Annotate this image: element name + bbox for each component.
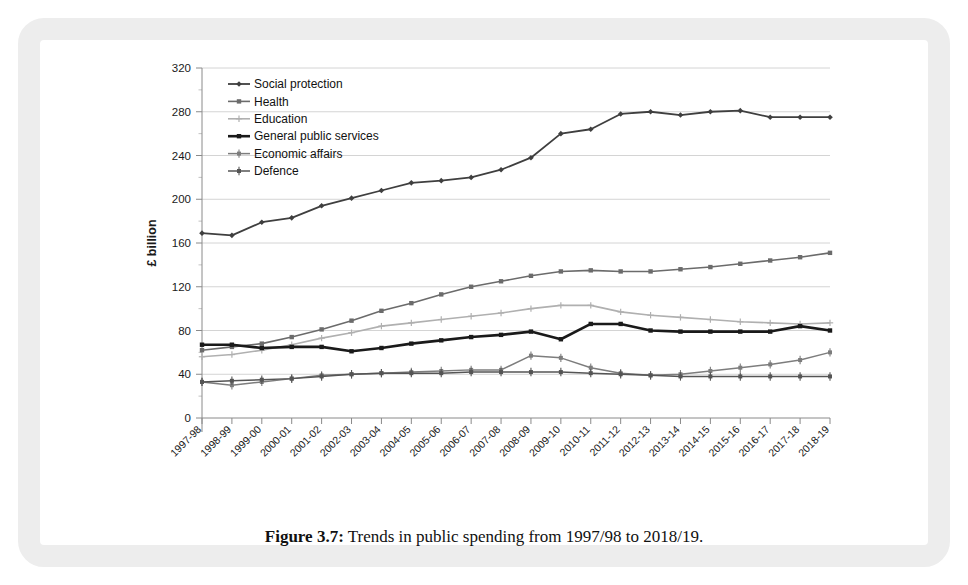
data-point bbox=[589, 322, 593, 326]
figure-container: 04080120160200240280320 1997-981998-9919… bbox=[0, 0, 968, 585]
x-tick-label: 2007-08 bbox=[467, 423, 503, 459]
data-point bbox=[408, 320, 414, 326]
legend-item-economic-affairs: Economic affairs bbox=[228, 147, 342, 161]
data-point bbox=[499, 333, 503, 337]
figure-caption: Figure 3.7: Trends in public spending fr… bbox=[60, 527, 908, 547]
x-tick-label: 2018-19 bbox=[796, 423, 832, 459]
data-point bbox=[798, 324, 802, 328]
data-point bbox=[289, 215, 295, 221]
y-axis-title-group: £ billion bbox=[145, 219, 159, 266]
chart-legend: Social protectionHealthEducationGeneral … bbox=[228, 77, 379, 178]
legend-marker bbox=[237, 134, 241, 138]
series-economic-affairs bbox=[200, 348, 832, 389]
data-point bbox=[259, 219, 265, 225]
data-point bbox=[349, 349, 353, 353]
data-point bbox=[379, 369, 383, 377]
x-tick-label: 2016-17 bbox=[736, 423, 772, 459]
data-point bbox=[260, 346, 264, 350]
data-point bbox=[677, 314, 683, 320]
x-tick-label: 2005-06 bbox=[407, 423, 443, 459]
x-tick-label: 1999-00 bbox=[227, 423, 263, 459]
legend-item-general-public-services: General public services bbox=[228, 129, 379, 143]
line-chart: 04080120160200240280320 1997-981998-9919… bbox=[140, 60, 840, 510]
series-line bbox=[202, 253, 830, 350]
data-point bbox=[828, 328, 832, 332]
figure-caption-label: Figure 3.7: bbox=[265, 527, 344, 546]
legend-marker bbox=[236, 116, 242, 122]
data-point bbox=[319, 345, 323, 349]
series-line bbox=[202, 372, 830, 382]
data-point bbox=[767, 320, 773, 326]
x-tick-label: 2008-09 bbox=[497, 423, 533, 459]
data-point bbox=[498, 167, 504, 173]
y-tick-label: 320 bbox=[172, 62, 191, 74]
data-point bbox=[678, 112, 684, 118]
data-point bbox=[738, 262, 742, 266]
data-point bbox=[409, 301, 413, 305]
data-point bbox=[828, 251, 832, 255]
x-tick-label: 2000-01 bbox=[257, 423, 293, 459]
y-tick-label: 120 bbox=[172, 281, 191, 293]
series-defence bbox=[200, 368, 832, 386]
legend-item-health: Health bbox=[228, 95, 289, 109]
data-point bbox=[559, 337, 563, 341]
data-point bbox=[529, 274, 533, 278]
data-point bbox=[559, 354, 563, 362]
data-point bbox=[439, 292, 443, 296]
data-point bbox=[528, 305, 534, 311]
y-tick-label: 80 bbox=[178, 325, 191, 337]
legend-label: Social protection bbox=[254, 77, 343, 91]
data-point bbox=[379, 188, 385, 194]
data-point bbox=[678, 267, 682, 271]
legend-item-education: Education bbox=[228, 112, 307, 126]
x-tick-label: 2006-07 bbox=[437, 423, 473, 459]
x-tick-label: 2009-10 bbox=[527, 423, 563, 459]
x-tick-label: 2017-18 bbox=[766, 423, 802, 459]
data-point bbox=[199, 230, 205, 236]
data-point bbox=[468, 313, 474, 319]
data-point bbox=[200, 378, 204, 386]
data-point bbox=[798, 255, 802, 259]
x-tick-label: 2004-05 bbox=[377, 423, 413, 459]
data-point bbox=[708, 372, 712, 380]
data-point bbox=[708, 329, 712, 333]
data-point bbox=[559, 269, 563, 273]
x-tick-label: 2014-15 bbox=[676, 423, 712, 459]
legend-marker bbox=[236, 81, 242, 87]
data-point bbox=[647, 312, 653, 318]
x-tick-labels-group: 1997-981998-991999-002000-012001-022002-… bbox=[168, 423, 832, 459]
data-point bbox=[290, 345, 294, 349]
data-point bbox=[229, 233, 235, 239]
series-health bbox=[200, 251, 832, 353]
data-point bbox=[319, 327, 323, 331]
y-tick-labels-group: 04080120160200240280320 bbox=[172, 62, 191, 424]
data-point bbox=[708, 265, 712, 269]
data-point bbox=[648, 269, 652, 273]
data-point bbox=[469, 335, 473, 339]
data-point bbox=[798, 356, 802, 364]
data-point bbox=[260, 341, 264, 345]
data-point bbox=[229, 351, 235, 357]
data-point bbox=[827, 114, 833, 120]
x-tick-label: 2012-13 bbox=[616, 423, 652, 459]
data-point bbox=[379, 346, 383, 350]
series-line bbox=[202, 324, 830, 351]
data-point bbox=[498, 310, 504, 316]
y-axis-title: £ billion bbox=[145, 219, 159, 266]
data-point bbox=[768, 258, 772, 262]
data-point bbox=[439, 338, 443, 342]
data-point bbox=[738, 363, 742, 371]
y-tick-label: 0 bbox=[185, 412, 191, 424]
legend-label: Defence bbox=[254, 164, 299, 178]
series-line bbox=[202, 352, 830, 385]
data-point bbox=[707, 316, 713, 322]
data-point bbox=[529, 351, 533, 359]
data-point bbox=[737, 108, 743, 114]
x-tick-label: 2003-04 bbox=[347, 423, 383, 459]
x-tick-label: 1997-98 bbox=[168, 423, 204, 459]
legend-label: General public services bbox=[254, 129, 379, 143]
data-point bbox=[648, 328, 652, 332]
data-point bbox=[199, 354, 205, 360]
data-point bbox=[290, 374, 294, 382]
y-tick-label: 280 bbox=[172, 106, 191, 118]
